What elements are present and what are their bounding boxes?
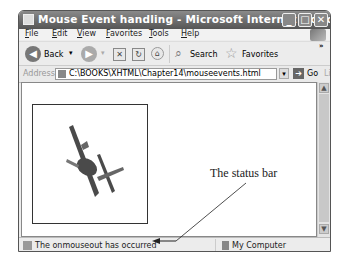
annotation-arrow xyxy=(0,0,349,261)
